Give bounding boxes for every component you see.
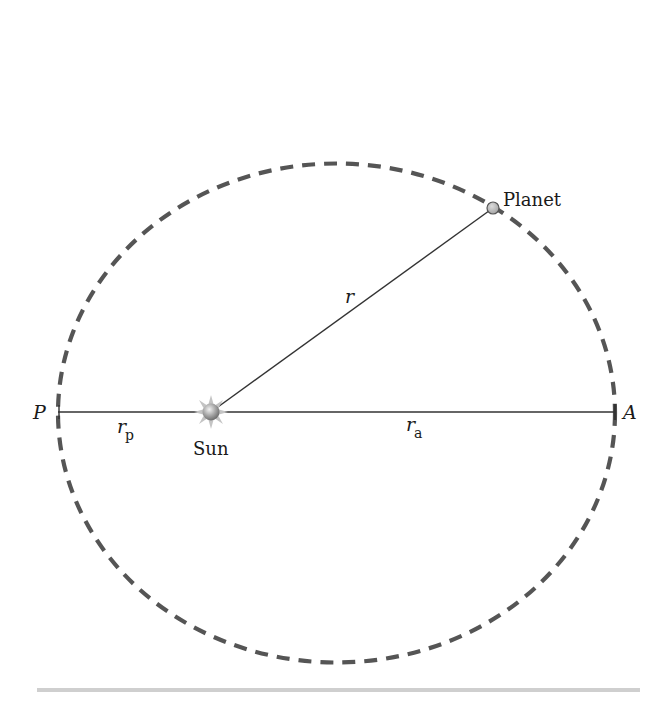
perihelion-distance-label: r p — [117, 415, 134, 443]
bottom-rule — [37, 688, 640, 692]
orbit-ellipse — [58, 164, 615, 663]
aphelion-distance-label: r a — [406, 413, 422, 441]
sun-label: Sun — [193, 438, 229, 459]
perihelion-label: P — [32, 401, 47, 423]
svg-text:a: a — [414, 425, 422, 441]
svg-text:p: p — [125, 427, 134, 443]
planet-label: Planet — [503, 189, 562, 210]
radius-label: r — [345, 285, 356, 307]
planet-icon — [487, 202, 499, 214]
orbit-diagram: Planet Sun P A r r p r a — [0, 0, 670, 702]
radius-line — [211, 208, 493, 412]
sun-icon — [194, 395, 228, 429]
aphelion-label: A — [621, 401, 637, 423]
